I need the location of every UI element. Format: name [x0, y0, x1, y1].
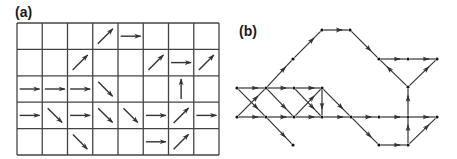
graph-node-h2: [435, 115, 438, 118]
edge-arrowhead-icon: [367, 133, 371, 137]
graph-node-u1: [291, 57, 294, 60]
graph-node-l3: [406, 143, 409, 146]
graph-node-b2: [264, 115, 267, 118]
graph-node-r1: [377, 57, 380, 60]
edge-arrowhead-icon: [310, 38, 314, 42]
edge-arrowhead-icon: [339, 105, 343, 109]
graph-node-f2: [377, 115, 380, 118]
graph-edge: [267, 89, 292, 115]
graph-node-a2: [235, 115, 238, 118]
edge-arrowhead-icon: [254, 96, 258, 100]
arrow-ne-icon: [174, 134, 189, 149]
edge-arrowhead-icon: [281, 67, 285, 71]
edge-arrowhead-icon: [387, 67, 391, 71]
edge-arrowhead-icon: [282, 105, 286, 109]
graph-edge: [380, 60, 406, 85]
arrow-ne-icon: [73, 55, 88, 70]
graph-node-t1: [320, 28, 323, 31]
graph-node-r3: [435, 57, 438, 60]
edge-arrowhead-icon: [281, 133, 285, 137]
graph-node-g2: [406, 115, 409, 118]
arrow-ne-icon: [148, 55, 163, 70]
graph-edge: [409, 118, 435, 143]
graph-edge: [323, 89, 349, 115]
graph-edge: [267, 118, 291, 143]
edge-arrowhead-icon: [367, 47, 371, 51]
arrow-se-icon: [123, 108, 137, 122]
graph-edge: [351, 31, 377, 57]
panel-b-edges: [238, 30, 435, 145]
graph-node-d1: [320, 86, 323, 89]
edge-arrowhead-icon: [425, 125, 429, 129]
graph-edge: [409, 60, 435, 85]
arrow-se-icon: [73, 135, 87, 149]
arrow-se-icon: [98, 108, 112, 122]
graph-node-l1: [291, 143, 294, 146]
graph-node-c1: [292, 86, 295, 89]
figure-canvas: [0, 0, 457, 159]
arrow-ne-icon: [199, 55, 214, 70]
edge-arrowhead-icon: [425, 67, 429, 71]
arrow-se-icon: [98, 82, 112, 96]
graph-edge: [294, 31, 320, 57]
graph-node-r2: [406, 57, 409, 60]
arrow-ne-icon: [98, 29, 113, 44]
edge-arrowhead-icon: [310, 96, 314, 100]
graph-node-l2: [377, 143, 380, 146]
graph-node-c2: [292, 115, 295, 118]
graph-node-b1: [264, 86, 267, 89]
graph-node-e2: [349, 115, 352, 118]
graph-node-a1: [235, 86, 238, 89]
edge-arrowhead-icon: [254, 105, 258, 109]
graph-edge: [267, 60, 291, 86]
graph-edge: [352, 118, 377, 143]
arrow-se-icon: [48, 108, 62, 122]
edge-arrowhead-icon: [310, 105, 314, 109]
arrow-ne-icon: [174, 108, 189, 123]
graph-node-r4: [406, 85, 409, 88]
graph-node-d2: [320, 115, 323, 118]
graph-node-t2: [348, 28, 351, 31]
